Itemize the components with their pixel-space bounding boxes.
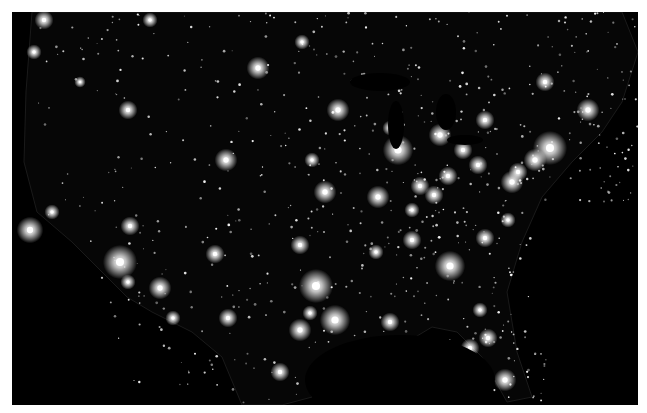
lake-huron — [436, 94, 456, 130]
lake-superior — [350, 73, 410, 91]
lake-michigan — [388, 101, 404, 149]
night-lights-map — [12, 12, 638, 405]
usa-night-satellite-image — [12, 12, 638, 405]
lake-erie — [447, 135, 483, 145]
